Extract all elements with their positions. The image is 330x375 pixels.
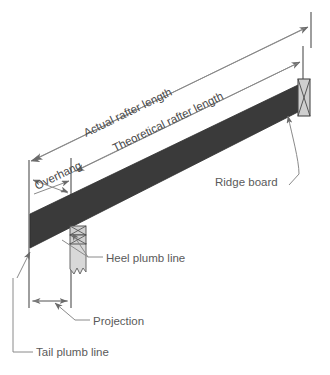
diagram-canvas: Actual rafter length Theoretical rafter … (0, 0, 330, 375)
label-tail-plumb-line: Tail plumb line (36, 346, 109, 358)
wall-stub (70, 243, 86, 274)
label-projection: Projection (93, 315, 144, 327)
label-heel-plumb-line: Heel plumb line (106, 252, 185, 264)
label-ridge-board: Ridge board (215, 176, 278, 188)
label-overhang: Overhang (33, 159, 84, 192)
ridge-board-member (298, 79, 310, 116)
rafter-diagram: Actual rafter length Theoretical rafter … (0, 0, 330, 375)
